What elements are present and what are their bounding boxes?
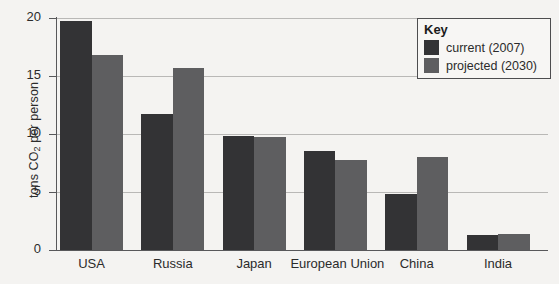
x-axis-label: India: [453, 256, 543, 271]
legend-label-projected: projected (2030): [446, 59, 537, 73]
y-axis-tick: [49, 192, 57, 193]
y-axis-tick-label: 20: [7, 9, 41, 24]
bar-chart: tons CO2 per person 05101520 USARussiaJa…: [0, 0, 559, 284]
y-axis-tick-label: 15: [7, 67, 41, 82]
bar: [141, 114, 173, 250]
bar: [60, 21, 92, 250]
bar: [467, 235, 499, 250]
legend-swatch-projected: [424, 58, 439, 73]
legend-title: Key: [424, 23, 544, 37]
bar: [498, 234, 530, 250]
y-axis-tick-label: 5: [7, 183, 41, 198]
x-axis-label: Russia: [128, 256, 218, 271]
gridline: [57, 192, 548, 193]
bar: [223, 136, 255, 250]
x-axis-label: China: [372, 256, 462, 271]
legend: Key current (2007) projected (2030): [417, 18, 551, 79]
y-axis-tick: [49, 76, 57, 77]
x-axis-label: Japan: [209, 256, 299, 271]
y-axis-title-subscript: 2: [32, 146, 42, 151]
bar: [304, 151, 336, 250]
bar: [254, 137, 286, 250]
bar: [173, 68, 205, 250]
legend-item-current: current (2007): [424, 40, 544, 55]
bar: [92, 55, 124, 250]
gridline: [57, 134, 548, 135]
legend-item-projected: projected (2030): [424, 58, 544, 73]
x-axis-line: [56, 250, 548, 251]
legend-swatch-current: [424, 40, 439, 55]
legend-label-current: current (2007): [446, 41, 525, 55]
y-axis-tick-label: 10: [7, 125, 41, 140]
y-axis-tick: [49, 134, 57, 135]
x-axis-label: European Union: [290, 256, 380, 271]
bar: [335, 160, 367, 250]
y-axis-tick: [49, 250, 57, 251]
x-axis-label: USA: [47, 256, 137, 271]
bar: [417, 157, 449, 250]
y-axis-tick: [49, 18, 57, 19]
y-axis-tick-label: 0: [7, 241, 41, 256]
bar: [385, 194, 417, 250]
